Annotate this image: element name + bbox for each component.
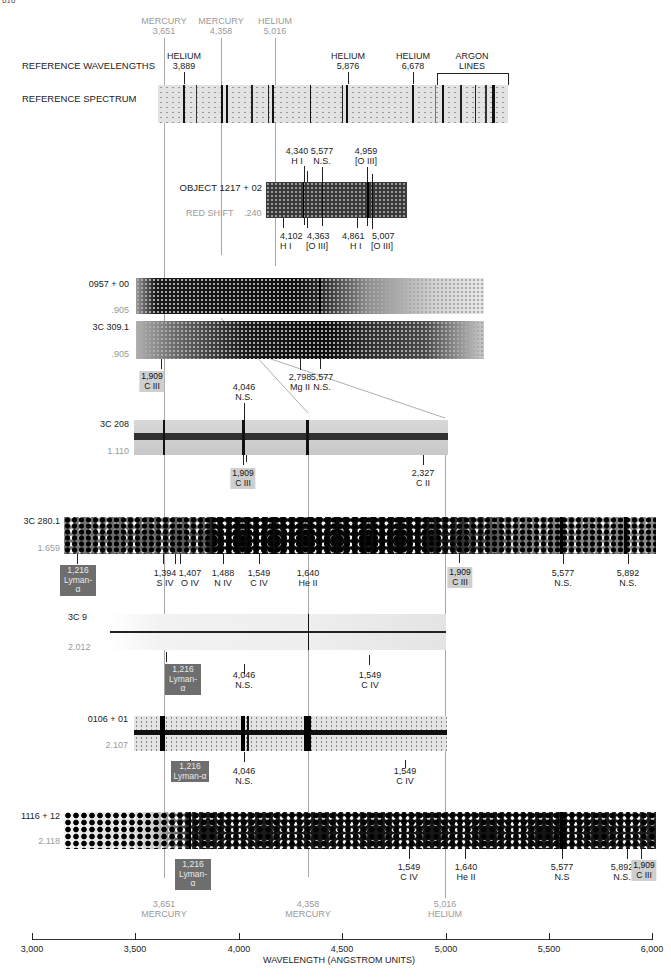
spectrum-3c309.1: [136, 321, 484, 359]
object-3c280-redshift: 1.659: [37, 543, 60, 553]
object-3c309-name: 3C 309.1: [92, 322, 129, 332]
line-label-ion: N.S.: [613, 872, 631, 882]
line-label-ion: N.S.: [313, 382, 331, 392]
line-label-value: 5,577: [552, 568, 575, 578]
line-label-value: 5,577: [551, 862, 574, 872]
line-label-value: 4,340: [286, 146, 309, 156]
line-label-ion: [O III]: [371, 241, 393, 251]
bottom-mercury-3651-name: MERCURY: [141, 909, 186, 919]
ref-mercury-3651-value: 3,651: [153, 26, 176, 36]
line-label-value: 1,549: [359, 670, 382, 680]
ref-mercury-4358-value: 4,358: [210, 26, 233, 36]
line-label-ion: N.S.: [235, 392, 253, 402]
spectrum-3c208: [134, 420, 448, 455]
ref-helium-6678-name: HELIUM: [396, 51, 430, 61]
ref-mercury-3651-name: MERCURY: [141, 16, 186, 26]
ref-helium-5016-value: 5,016: [264, 26, 287, 36]
axis-tick-5500: 5,500: [538, 944, 561, 954]
line-label-ion: N.S.: [235, 680, 253, 690]
reference-spectrum-strip: [158, 85, 508, 123]
bottom-mercury-3651-value: 3,651: [153, 899, 176, 909]
ref-argon-lines: LINES: [459, 61, 485, 71]
axis-tick-6000: 6,000: [641, 944, 664, 954]
line-label-value: 1,549: [248, 568, 271, 578]
line-label-ion: N.S: [554, 872, 569, 882]
axis-label: WAVELENGTH (ANGSTROM UNITS): [263, 955, 415, 965]
line-label-ion: S IV: [156, 578, 173, 588]
object-0957-name: 0957 + 00: [89, 279, 129, 289]
bottom-mercury-4358-value: 4,358: [297, 899, 320, 909]
line-label-ion: H I: [280, 241, 292, 251]
object-0106-redshift: 2.107: [105, 740, 128, 750]
c-iii-label-box: 1,909C III: [230, 468, 255, 489]
bottom-helium-5016-value: 5,016: [434, 899, 457, 909]
spectrum-0957+00: [136, 278, 484, 314]
ref-helium-3889-name: HELIUM: [167, 51, 201, 61]
object-3c280-name: 3C 280.1: [23, 516, 60, 526]
axis-tick-3000: 3,000: [21, 944, 44, 954]
ref-helium-5016-name: HELIUM: [258, 16, 292, 26]
line-label-ion: N.S.: [554, 578, 572, 588]
bottom-helium-5016-name: HELIUM: [428, 909, 462, 919]
line-label-ion: He II: [298, 578, 317, 588]
object-0106-name: 0106 + 01: [88, 714, 128, 724]
line-label-value: 4,102: [280, 231, 303, 241]
line-label-ion: O IV: [181, 578, 199, 588]
ref-helium-6678-value: 6,678: [402, 61, 425, 71]
ref-helium-5876-name: HELIUM: [331, 51, 365, 61]
axis-tick-4500: 4,500: [331, 944, 354, 954]
spectrum-0106+01: [134, 716, 447, 751]
axis-tick-3500: 3,500: [124, 944, 147, 954]
object-1217-name: OBJECT 1217 + 02: [180, 183, 262, 193]
line-label-ion: C IV: [361, 680, 379, 690]
object-3c9-name: 3C 9: [68, 612, 87, 622]
object-1217-redshift: .240: [244, 208, 262, 218]
line-label-ion: C IV: [400, 872, 418, 882]
line-label-value: 5,577: [311, 146, 334, 156]
c-iii-label-box: 1,909C III: [631, 860, 656, 881]
line-label-value: 2,327: [412, 468, 435, 478]
spectrum-3c280.1: [64, 517, 656, 554]
line-label-value: 5,577: [311, 372, 334, 382]
object-0957-redshift: .905: [111, 305, 129, 315]
lyman-alpha-label-box: 1,216Lyman-α: [175, 859, 211, 890]
line-label-value: 1,407: [179, 568, 202, 578]
line-label-value: 1,640: [297, 568, 320, 578]
object-3c208-name: 3C 208: [100, 419, 129, 429]
lyman-alpha-label-box: 1,216Lyman-α: [171, 761, 209, 782]
line-label-value: 1,549: [394, 766, 417, 776]
ref-argon-name: ARGON: [455, 51, 488, 61]
object-1116-name: 1116 + 12: [21, 811, 60, 821]
line-label-value: 4,046: [233, 766, 256, 776]
reference-wavelengths-label: REFERENCE WAVELENGTHS: [22, 61, 155, 71]
line-label-ion: C II: [416, 478, 430, 488]
lyman-alpha-label-box: 1,216Lyman-α: [165, 664, 201, 695]
axis-tick-4000: 4,000: [228, 944, 251, 954]
c-iii-label-box: 1,909C III: [139, 371, 164, 392]
line-label-ion: N.S.: [235, 776, 253, 786]
spectrum-1116+12: [64, 812, 656, 849]
line-label-value: 4,046: [233, 670, 256, 680]
c-iii-label-box: 1,909C III: [447, 567, 472, 588]
line-label-value: 1,640: [455, 862, 478, 872]
line-label-value: 5,892: [611, 862, 634, 872]
line-label-value: 4,861: [342, 231, 365, 241]
line-label-value: 4,363: [307, 231, 330, 241]
line-label-ion: C IV: [396, 776, 414, 786]
object-1116-redshift: 2.118: [38, 836, 60, 846]
spectrum-1217+02: [266, 182, 407, 218]
line-label-ion: H I: [350, 241, 362, 251]
ref-helium-5876-value: 5,876: [337, 61, 360, 71]
line-label-value: 5,007: [372, 231, 395, 241]
argon-bracket: [437, 73, 509, 85]
line-label-ion: H I: [291, 156, 303, 166]
line-label-value: 4,959: [355, 146, 378, 156]
line-label-value: 1,394: [154, 568, 177, 578]
spectrum-3c9: [110, 614, 446, 650]
object-3c9-redshift: 2.012: [68, 642, 91, 652]
ref-mercury-4358-name: MERCURY: [198, 16, 243, 26]
line-label-value: 1,549: [398, 862, 421, 872]
bottom-mercury-4358-name: MERCURY: [285, 909, 330, 919]
line-label-ion: C IV: [250, 578, 268, 588]
reference-spectrum-label: REFERENCE SPECTRUM: [22, 94, 137, 104]
